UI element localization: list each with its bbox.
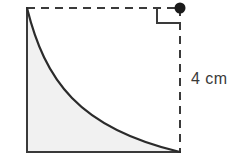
shaded-region [27,8,180,152]
vertex-dot-icon [175,3,186,14]
diagram-canvas [0,0,246,163]
geometry-figure: 4 cm [0,0,246,163]
